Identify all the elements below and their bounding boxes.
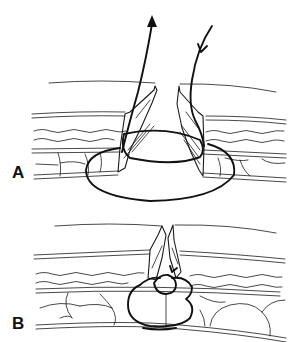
- panel-a-drawing: [32, 15, 286, 201]
- panel-label-b: B: [12, 315, 24, 332]
- skin-surface-left: [49, 81, 155, 83]
- suture-exit: [122, 24, 152, 152]
- arrow-up-icon: [147, 15, 157, 27]
- suture-illustration: [0, 0, 299, 342]
- panel-b-drawing: [34, 224, 286, 342]
- suture-loop-tied: [128, 278, 192, 327]
- panel-label-a: A: [12, 164, 24, 181]
- suture-entry: [191, 26, 212, 146]
- suture-loop-deep: [86, 144, 234, 201]
- skin-surface-right: [180, 84, 276, 92]
